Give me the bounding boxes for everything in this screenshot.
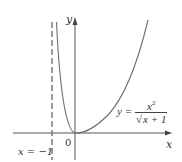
formula-numerator: x2: [145, 97, 157, 112]
origin-label: 0: [65, 138, 71, 148]
asymptote-label: x = −1: [18, 147, 53, 157]
radicand: x + 1: [142, 112, 166, 125]
x-axis-arrow-icon: [165, 131, 172, 136]
formula-denominator: √x + 1: [135, 113, 167, 126]
graph-figure: [0, 0, 182, 162]
formula-lhs: y =: [117, 105, 132, 117]
y-axis-arrow-icon: [73, 17, 78, 25]
numerator-exponent: 2: [152, 99, 156, 107]
formula-fraction: x2 √x + 1: [135, 97, 167, 126]
function-formula: y = x2 √x + 1: [117, 97, 167, 126]
y-axis-label: y: [66, 14, 72, 25]
x-axis-label: x: [166, 139, 172, 150]
